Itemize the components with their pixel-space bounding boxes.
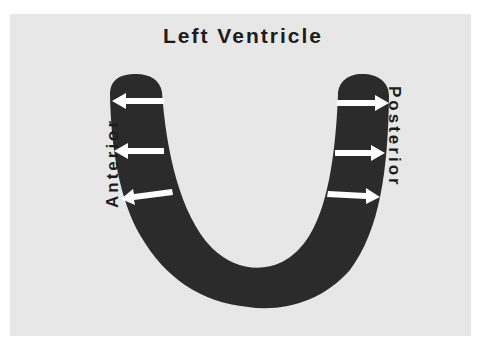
anterior-label: Anterior — [103, 118, 122, 208]
left-ventricle-diagram: Anterior Posterior — [0, 0, 486, 352]
ventricle-wall — [110, 74, 389, 308]
posterior-label: Posterior — [385, 86, 404, 188]
